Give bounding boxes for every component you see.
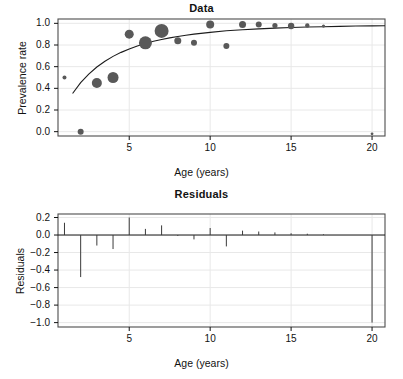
y-tick-label: 0.2 <box>22 212 50 223</box>
x-tick-label: 20 <box>360 142 384 153</box>
data-point <box>78 129 84 135</box>
grid-lines <box>58 19 385 136</box>
data-point <box>174 37 181 44</box>
data-point <box>62 76 66 80</box>
data-point <box>108 72 119 83</box>
data-point <box>288 23 294 29</box>
x-tick-label: 5 <box>117 142 141 153</box>
data-point <box>223 43 229 49</box>
axis-frame <box>58 19 385 136</box>
data-point <box>92 78 102 88</box>
y-tick-label: −1.0 <box>22 317 50 328</box>
x-tick-label: 15 <box>279 142 303 153</box>
y-tick-label: −0.2 <box>22 247 50 258</box>
data-point <box>139 36 152 49</box>
data-point <box>206 20 214 28</box>
y-tick-label: −0.6 <box>22 282 50 293</box>
grid-lines <box>58 214 385 327</box>
panel-data: Data Prevalence rate Age (years) 0.00.20… <box>0 0 403 190</box>
y-tick-label: 0.6 <box>22 61 50 72</box>
x-tick-label: 10 <box>198 333 222 344</box>
data-points <box>62 20 373 135</box>
data-point <box>239 21 246 28</box>
x-tick-label: 10 <box>198 142 222 153</box>
panel-residuals-plot-area <box>0 185 403 379</box>
panel-residuals: Residuals Residuals Age (years) 0.20.0−0… <box>0 185 403 379</box>
y-tick-label: 0.2 <box>22 104 50 115</box>
axis-ticks <box>54 23 372 140</box>
fitted-curve-path <box>73 26 385 94</box>
x-tick-label: 15 <box>279 333 303 344</box>
y-tick-label: −0.4 <box>22 264 50 275</box>
y-tick-label: 0.4 <box>22 82 50 93</box>
y-tick-label: 1.0 <box>22 17 50 28</box>
y-tick-label: 0.0 <box>22 126 50 137</box>
y-tick-label: −0.8 <box>22 299 50 310</box>
x-tick-label: 20 <box>360 333 384 344</box>
y-tick-label: 0.8 <box>22 39 50 50</box>
plot-frame <box>58 19 385 136</box>
fitted-curve <box>73 26 385 94</box>
x-tick-label: 5 <box>117 333 141 344</box>
data-point <box>322 24 325 27</box>
y-tick-label: 0.0 <box>22 229 50 240</box>
data-point <box>125 30 134 39</box>
data-point <box>155 24 169 38</box>
figure-canvas: Data Prevalence rate Age (years) 0.00.20… <box>0 0 403 379</box>
panel-data-plot-area <box>0 0 403 190</box>
data-point <box>371 132 374 135</box>
data-point <box>305 23 309 27</box>
data-point <box>272 23 277 28</box>
data-point <box>191 40 197 46</box>
data-point <box>256 21 262 27</box>
